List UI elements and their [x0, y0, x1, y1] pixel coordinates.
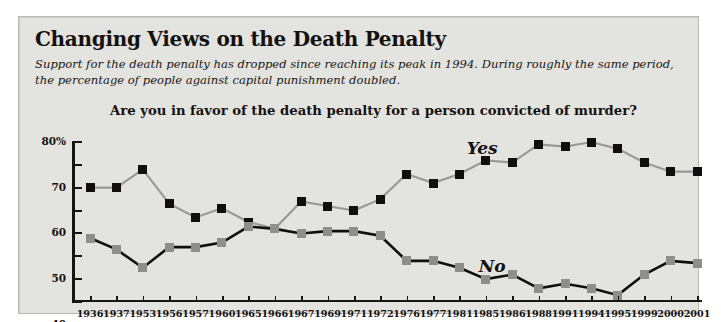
x-tick [196, 296, 198, 302]
data-point-no [191, 243, 200, 252]
data-point-yes [376, 195, 385, 204]
y-tick: 50 [72, 210, 82, 212]
series-label-no: No [479, 256, 506, 276]
y-tick-label: 50 [51, 272, 66, 284]
x-tick [354, 296, 356, 302]
y-tick: 60 [72, 187, 82, 189]
x-tick-label: 2001 [684, 308, 711, 319]
x-tick-label: 1965 [235, 308, 262, 319]
y-tick: 70 [72, 164, 82, 166]
x-tick-label: 1999 [631, 308, 658, 319]
data-point-no [429, 256, 438, 265]
data-point-no [508, 270, 517, 279]
series-label-yes: Yes [467, 138, 498, 158]
x-tick-label: 2000 [657, 308, 684, 319]
x-tick-label: 1953 [129, 308, 156, 319]
x-tick [407, 296, 409, 302]
x-tick [301, 296, 303, 302]
x-tick-label: 1960 [209, 308, 236, 319]
data-point-yes [561, 142, 570, 151]
x-tick [248, 296, 250, 302]
x-tick [539, 296, 541, 302]
data-point-yes [217, 204, 226, 213]
x-tick-label: 1969 [314, 308, 341, 319]
data-point-no [244, 222, 253, 231]
data-point-yes [587, 138, 596, 147]
x-tick-label: 1966 [261, 308, 288, 319]
x-tick [512, 296, 514, 302]
data-point-no [402, 256, 411, 265]
y-tick-label: 40 [51, 318, 66, 322]
chart-subtitle: Support for the death penalty has droppe… [35, 57, 683, 88]
chart-panel: Changing Views on the Death Penalty Supp… [18, 16, 699, 314]
data-point-no [666, 256, 675, 265]
data-point-yes [165, 199, 174, 208]
x-tick [459, 296, 461, 302]
data-point-yes [323, 202, 332, 211]
x-tick-label: 1971 [341, 308, 368, 319]
x-tick-label: 1976 [393, 308, 420, 319]
data-point-yes [429, 179, 438, 188]
data-point-yes [508, 158, 517, 167]
data-point-no [693, 259, 702, 268]
y-tick: 20 [72, 278, 82, 280]
x-tick [618, 296, 620, 302]
x-tick-label: 1995 [604, 308, 631, 319]
data-point-no [349, 227, 358, 236]
x-tick-label: 1981 [446, 308, 473, 319]
x-tick-label: 1956 [156, 308, 183, 319]
x-tick-label: 1994 [578, 308, 605, 319]
x-tick-label: 1937 [103, 308, 130, 319]
y-tick: 80% [72, 141, 82, 143]
data-point-yes [112, 183, 121, 192]
chart-page: Changing Views on the Death Penalty Supp… [0, 0, 721, 322]
data-point-yes [640, 158, 649, 167]
x-tick [143, 296, 145, 302]
data-point-yes [297, 197, 306, 206]
data-point-yes [666, 167, 675, 176]
y-tick-label: 80% [41, 135, 66, 147]
x-tick [697, 296, 699, 302]
y-tick: 10 [72, 301, 82, 303]
data-point-yes [534, 140, 543, 149]
x-tick-label: 1957 [182, 308, 209, 319]
x-tick-label: 1985 [473, 308, 500, 319]
y-tick: 30 [72, 255, 82, 257]
x-tick-label: 1972 [367, 308, 394, 319]
data-point-yes [693, 167, 702, 176]
x-tick [565, 296, 567, 302]
series-lines [72, 142, 702, 302]
plot-area: 80%70605040302010 1936193719531956195719… [72, 142, 702, 302]
y-tick-label: 70 [51, 181, 66, 193]
data-point-no [112, 245, 121, 254]
x-tick-label: 1936 [77, 308, 104, 319]
data-point-no [640, 270, 649, 279]
data-point-no [455, 263, 464, 272]
y-tick-label: 60 [51, 226, 66, 238]
data-point-yes [613, 144, 622, 153]
chart-question: Are you in favor of the death penalty fo… [19, 103, 700, 118]
x-tick [486, 296, 488, 302]
data-point-yes [455, 170, 464, 179]
data-point-no [534, 284, 543, 293]
x-tick [433, 296, 435, 302]
x-tick [644, 296, 646, 302]
x-tick [275, 296, 277, 302]
data-point-no [323, 227, 332, 236]
x-tick [380, 296, 382, 302]
data-point-no [270, 224, 279, 233]
data-point-no [297, 229, 306, 238]
data-point-yes [86, 183, 95, 192]
x-tick-label: 1988 [525, 308, 552, 319]
data-point-no [561, 279, 570, 288]
data-point-no [86, 234, 95, 243]
data-point-yes [349, 206, 358, 215]
x-tick [671, 296, 673, 302]
data-point-yes [191, 213, 200, 222]
data-point-yes [138, 165, 147, 174]
x-tick [169, 296, 171, 302]
series-line-yes [90, 142, 697, 229]
data-point-no [376, 231, 385, 240]
series-line-no [90, 227, 697, 296]
x-tick-label: 1967 [288, 308, 315, 319]
